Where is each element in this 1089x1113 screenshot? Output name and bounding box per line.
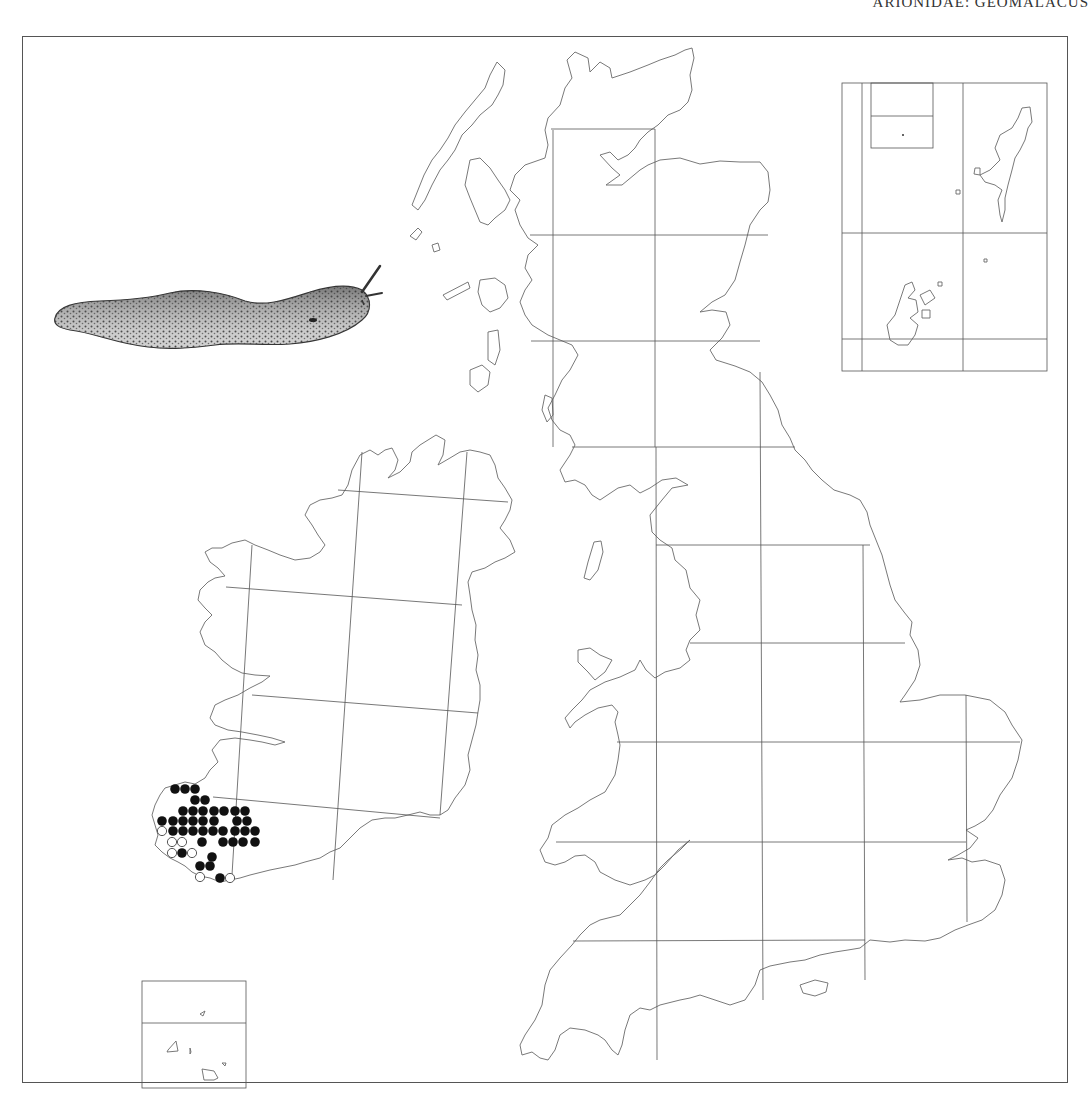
record-dot-filled bbox=[240, 826, 250, 836]
inset-channel-islands bbox=[142, 981, 246, 1088]
record-dot-filled bbox=[178, 826, 188, 836]
record-dot-filled bbox=[157, 816, 167, 826]
record-dot-filled bbox=[207, 852, 217, 862]
record-dot-filled bbox=[209, 816, 219, 826]
record-dot-filled bbox=[242, 816, 252, 826]
record-dot-filled bbox=[198, 806, 208, 816]
record-dot-filled bbox=[188, 806, 198, 816]
record-dot-open bbox=[187, 848, 196, 857]
record-dot-open bbox=[195, 872, 204, 881]
record-dot-filled bbox=[215, 873, 225, 883]
record-dot-filled bbox=[195, 861, 205, 871]
record-dot-filled bbox=[209, 806, 219, 816]
record-dot-filled bbox=[178, 806, 188, 816]
record-dot-open bbox=[225, 873, 234, 882]
record-dot-filled bbox=[219, 806, 229, 816]
record-dot-filled bbox=[188, 826, 198, 836]
distribution-map bbox=[0, 0, 1089, 1113]
record-dot-filled bbox=[177, 848, 187, 858]
record-dot-open bbox=[177, 837, 186, 846]
record-dot-open bbox=[157, 826, 166, 835]
record-dot-filled bbox=[208, 826, 218, 836]
great-britain-coastline bbox=[410, 48, 1022, 1060]
record-dot-filled bbox=[200, 795, 210, 805]
record-dots bbox=[157, 784, 260, 883]
record-dot-filled bbox=[238, 837, 248, 847]
record-dot-filled bbox=[168, 816, 178, 826]
record-dot-filled bbox=[250, 826, 260, 836]
record-dot-filled bbox=[198, 826, 208, 836]
ireland-coastline bbox=[152, 435, 515, 882]
record-dot-filled bbox=[188, 816, 198, 826]
record-dot-filled bbox=[218, 837, 228, 847]
record-dot-open bbox=[167, 837, 176, 846]
record-dot-filled bbox=[205, 861, 215, 871]
record-dot-filled bbox=[190, 795, 200, 805]
record-dot-filled bbox=[218, 826, 228, 836]
record-dot-filled bbox=[228, 837, 238, 847]
record-dot-open bbox=[167, 848, 176, 857]
record-dot-filled bbox=[232, 816, 242, 826]
record-dot-filled bbox=[250, 837, 260, 847]
record-dot-filled bbox=[197, 837, 207, 847]
record-dot-filled bbox=[198, 816, 208, 826]
record-dot-filled bbox=[170, 784, 180, 794]
inset-northern-isles bbox=[842, 83, 1047, 371]
slug-illustration bbox=[55, 266, 382, 348]
record-dot-filled bbox=[180, 784, 190, 794]
record-dot-filled bbox=[230, 806, 240, 816]
record-dot-filled bbox=[168, 826, 178, 836]
record-dot-filled bbox=[240, 806, 250, 816]
record-dot-filled bbox=[178, 816, 188, 826]
record-dot-filled bbox=[190, 784, 200, 794]
record-dot-filled bbox=[230, 826, 240, 836]
gb-grid bbox=[530, 129, 1020, 1060]
ireland-grid bbox=[213, 452, 508, 880]
